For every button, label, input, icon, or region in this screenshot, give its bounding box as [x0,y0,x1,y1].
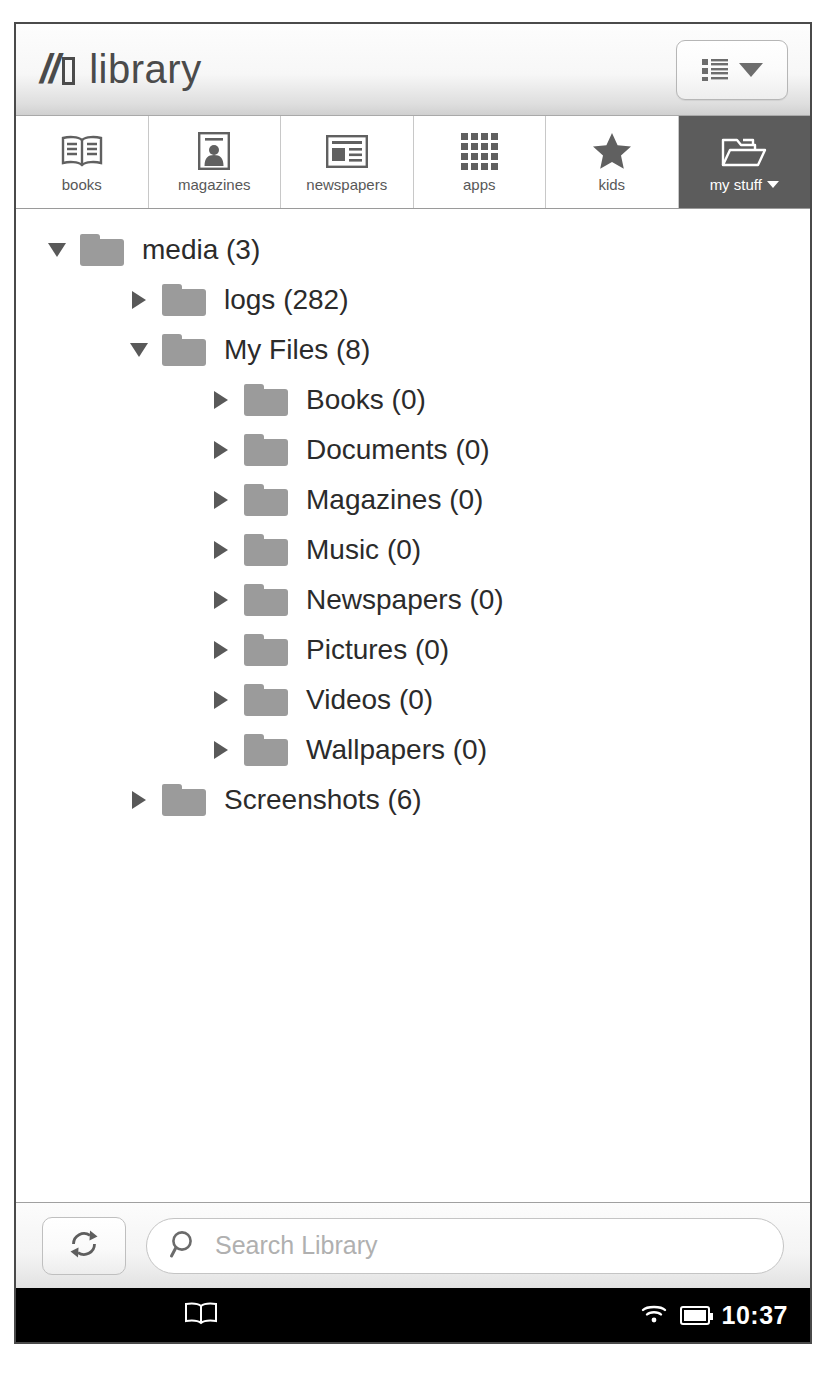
expand-toggle[interactable] [122,291,156,309]
expand-toggle[interactable] [204,591,238,609]
folder-icon [162,334,206,366]
page-title: library [89,47,201,92]
triangle-right-icon [214,741,228,759]
tab-label: apps [463,177,496,192]
collapse-toggle[interactable] [122,343,156,357]
tab-newspapers[interactable]: newspapers [281,116,414,208]
tab-my-stuff[interactable]: my stuff [679,116,811,208]
wifi-icon [640,1302,668,1328]
expand-toggle[interactable] [204,491,238,509]
title-bar: // library [16,24,810,116]
tree-row-label: Newspapers (0) [306,586,504,614]
chevron-down-icon [739,63,763,77]
battery-full-icon [680,1306,710,1325]
tree-row-label: Videos (0) [306,686,433,714]
tab-label: my stuff [710,177,779,192]
tree-row[interactable]: Music (0) [16,525,810,575]
tree-row[interactable]: Magazines (0) [16,475,810,525]
tree-row-label: logs (282) [224,286,349,314]
folder-icon [244,434,288,466]
tree-row-label: My Files (8) [224,336,370,364]
expand-toggle[interactable] [204,441,238,459]
expand-toggle[interactable] [122,791,156,809]
tab-label: kids [598,177,625,192]
tree-row[interactable]: Documents (0) [16,425,810,475]
book-icon [184,1300,218,1330]
magnifier-icon [169,1229,199,1263]
triangle-right-icon [214,541,228,559]
folder-icon [244,384,288,416]
status-clock: 10:37 [722,1301,788,1330]
tree-row-label: Pictures (0) [306,636,449,664]
expand-toggle[interactable] [40,243,74,257]
triangle-right-icon [214,691,228,709]
tree-row-label: media (3) [142,236,260,264]
tree-row-label: Music (0) [306,536,421,564]
tree-row[interactable]: media (3) [16,225,810,275]
open-book-icon [60,132,104,170]
tab-label: magazines [178,177,251,192]
folder-icon [80,234,124,266]
folder-icon [244,684,288,716]
tab-bar: books magazines [16,116,810,209]
expand-toggle[interactable] [204,691,238,709]
tree-row-label: Magazines (0) [306,486,483,514]
folder-icon [162,784,206,816]
triangle-right-icon [214,641,228,659]
triangle-right-icon [132,791,146,809]
list-view-icon [702,59,728,81]
refresh-button[interactable] [42,1217,126,1275]
tree-row[interactable]: Videos (0) [16,675,810,725]
folder-icon [162,284,206,316]
tree-row[interactable]: logs (282) [16,275,810,325]
device-frame: // library [14,22,812,1344]
tab-apps[interactable]: apps [414,116,547,208]
refresh-icon [67,1228,101,1264]
newspaper-icon [326,132,368,170]
folder-tree[interactable]: media (3) logs (282) My Files (8) Books … [16,209,810,1202]
tab-kids[interactable]: kids [546,116,679,208]
tree-row[interactable]: Pictures (0) [16,625,810,675]
tree-row[interactable]: Books (0) [16,375,810,425]
tab-magazines[interactable]: magazines [149,116,282,208]
notification-area[interactable] [184,1300,218,1330]
triangle-right-icon [214,391,228,409]
tree-row-label: Documents (0) [306,436,490,464]
triangle-down-icon [130,343,148,357]
tree-row-label: Books (0) [306,386,426,414]
expand-toggle[interactable] [204,741,238,759]
view-mode-button[interactable] [676,40,788,100]
triangle-right-icon [132,291,146,309]
app-logo: // library [40,47,202,92]
expand-toggle[interactable] [204,391,238,409]
triangle-right-icon [214,441,228,459]
tab-label: books [62,177,102,192]
search-placeholder: Search Library [215,1231,378,1260]
tree-row-selected[interactable]: My Files (8) [16,325,402,375]
tree-row[interactable]: Newspapers (0) [16,575,810,625]
status-bar: 10:37 [16,1288,810,1342]
tab-label: newspapers [306,177,387,192]
logo-slashes: // [40,47,58,92]
expand-toggle[interactable] [204,641,238,659]
search-input[interactable]: Search Library [146,1218,784,1274]
tree-row-label: Wallpapers (0) [306,736,487,764]
folder-icon [244,584,288,616]
grid-apps-icon [461,132,498,170]
star-icon [592,132,632,170]
tree-row[interactable]: Screenshots (6) [16,775,810,825]
triangle-down-icon [48,243,66,257]
chevron-down-icon [767,181,779,188]
tab-books[interactable]: books [16,116,149,208]
folder-icon [244,634,288,666]
folder-icon [244,484,288,516]
logo-box-glyph [62,57,75,85]
tree-row[interactable]: Wallpapers (0) [16,725,810,775]
magazine-icon [198,132,230,170]
tree-row-label: Screenshots (6) [224,786,422,814]
folder-icon [244,534,288,566]
triangle-right-icon [214,491,228,509]
bottom-toolbar: Search Library [16,1202,810,1288]
open-folder-icon [721,132,767,170]
expand-toggle[interactable] [204,541,238,559]
